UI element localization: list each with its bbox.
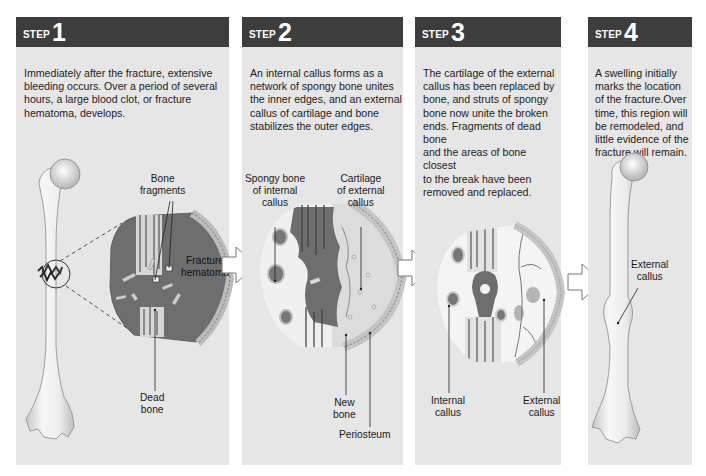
label-line: New <box>333 397 356 409</box>
label-line: callus <box>431 407 465 419</box>
fracture-hematoma-illustration <box>16 17 229 465</box>
label-line: External <box>631 259 668 271</box>
label-external-callus: External callus <box>631 259 668 283</box>
label-line: Internal <box>431 395 465 407</box>
step-1-panel: STEP 1 Immediately after the fracture, e… <box>16 17 229 465</box>
label-external-callus: External callus <box>523 395 560 419</box>
step-2-panel: STEP 2 An internal callus forms as a net… <box>242 17 403 465</box>
label-line: callus <box>245 197 305 209</box>
label-internal-callus: Internal callus <box>431 395 465 419</box>
label-line: callus <box>337 197 385 209</box>
step-3-panel: STEP 3 The cartilage of the external cal… <box>415 17 561 465</box>
internal-external-callus-illustration <box>242 17 403 465</box>
label-cartilage-external-callus: Cartilage of external callus <box>337 173 385 209</box>
healed-bone-illustration <box>588 17 692 465</box>
label-line: of internal <box>245 185 305 197</box>
label-line: External <box>523 395 560 407</box>
label-line: Periosteum <box>339 429 391 441</box>
label-bone-fragments: Bone fragments <box>140 173 185 197</box>
label-line: bone <box>333 409 356 421</box>
label-line: Bone <box>140 173 185 185</box>
label-new-bone: New bone <box>333 397 356 421</box>
label-spongy-bone-internal-callus: Spongy bone of internal callus <box>245 173 305 209</box>
label-line: callus <box>631 271 668 283</box>
label-line: Spongy bone <box>245 173 305 185</box>
label-line: bone <box>140 404 164 416</box>
label-dead-bone: Dead bone <box>140 392 164 416</box>
step-4-panel: STEP 4 A swelling initially marks the lo… <box>588 17 692 465</box>
label-line: Cartilage <box>337 173 385 185</box>
label-line: fragments <box>140 185 185 197</box>
label-line: callus <box>523 407 560 419</box>
label-line: Dead <box>140 392 164 404</box>
label-periosteum: Periosteum <box>339 429 391 441</box>
label-line: of external <box>337 185 385 197</box>
